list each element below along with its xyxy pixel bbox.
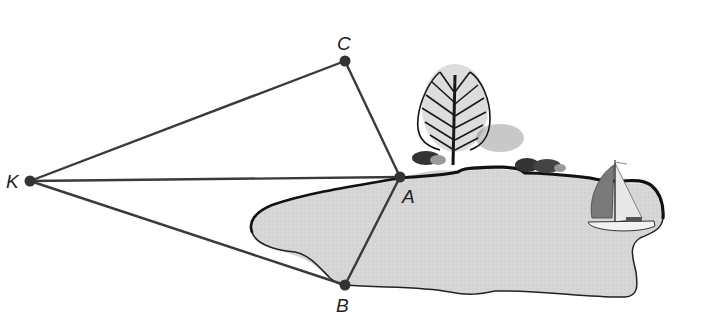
- segment-CA: [345, 61, 400, 177]
- bush-left: [412, 151, 446, 165]
- sail-jib: [591, 165, 614, 218]
- point-K: [25, 176, 36, 187]
- tree: [418, 64, 524, 165]
- diagram-canvas: [0, 0, 713, 333]
- tree-crown-shade: [422, 64, 488, 152]
- point-A: [395, 172, 406, 183]
- segment-KC: [30, 61, 345, 181]
- bush-right: [515, 158, 566, 173]
- cabin: [626, 217, 642, 222]
- label-C: C: [337, 34, 351, 53]
- label-B: B: [336, 296, 349, 315]
- point-B: [340, 280, 351, 291]
- point-C: [340, 56, 351, 67]
- segment-KA: [30, 177, 400, 181]
- flag: [615, 162, 627, 164]
- label-K: K: [6, 172, 19, 191]
- label-A: A: [402, 187, 415, 206]
